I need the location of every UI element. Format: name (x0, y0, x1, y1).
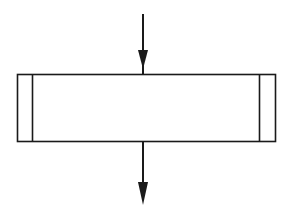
flowchart-diagram (0, 0, 286, 219)
incoming-arrow (138, 14, 148, 74)
predefined-process-box (18, 75, 276, 142)
arrowhead-icon (138, 182, 148, 205)
outgoing-arrow (138, 141, 148, 205)
